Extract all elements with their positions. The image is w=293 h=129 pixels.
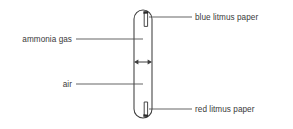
- label-blue-litmus-paper: blue litmus paper: [195, 13, 258, 23]
- blue-litmus-paper-strip: [144, 11, 148, 26]
- blue-litmus-attachment-mark: [144, 11, 148, 13]
- glass-tube: [134, 10, 152, 118]
- red-litmus-attachment-mark: [144, 115, 148, 117]
- blue-litmus-paper-body: [144, 12, 147, 26]
- label-ammonia-gas: ammonia gas: [8, 35, 72, 45]
- label-air: air: [8, 80, 72, 90]
- diagram-canvas: ammonia gas air blue litmus paper red li…: [0, 0, 293, 129]
- tube-outline: [134, 10, 152, 118]
- red-litmus-paper-body: [144, 102, 147, 116]
- label-red-litmus-paper: red litmus paper: [195, 105, 255, 115]
- red-litmus-paper-strip: [144, 102, 148, 117]
